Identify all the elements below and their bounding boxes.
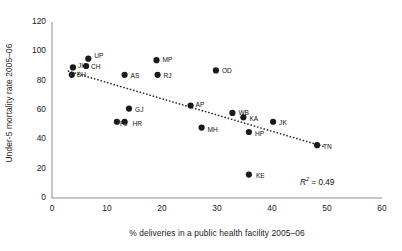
data-point-wb <box>229 110 235 116</box>
data-point-rj <box>155 72 161 78</box>
point-label-od: OD <box>222 67 232 74</box>
data-point-od <box>213 67 219 73</box>
point-label-tn: TN <box>323 143 332 150</box>
plot-area <box>0 0 402 251</box>
y-tick-label-120: 120 <box>20 16 46 26</box>
data-point-gj <box>126 105 132 111</box>
data-point-as <box>122 72 128 78</box>
point-label-ka: KA <box>249 115 258 122</box>
x-tick-label-40: 40 <box>257 203 287 213</box>
x-tick-label-10: 10 <box>92 203 122 213</box>
data-point-tn <box>314 142 320 148</box>
r-equals: = <box>309 178 318 187</box>
trend-line <box>69 71 325 147</box>
y-tick-label-0: 0 <box>20 192 46 202</box>
point-label-mp: MP <box>163 56 173 63</box>
point-label-as: AS <box>131 72 140 79</box>
point-label-ke: KE <box>256 172 265 179</box>
point-label-ap: AP <box>196 101 205 108</box>
r-squared-annotation: R2 = 0.49 <box>300 176 334 187</box>
y-tick-label-20: 20 <box>20 163 46 173</box>
data-point-ap <box>188 103 194 109</box>
point-label-gj: GJ <box>135 106 143 113</box>
point-label-wb: WB <box>238 109 249 116</box>
scatter-chart: Under-5 mortality rate 2005–06 % deliver… <box>0 0 402 251</box>
data-point-jk <box>270 119 276 125</box>
axis-lines <box>52 22 382 198</box>
data-point-jh <box>70 64 76 70</box>
data-point-up <box>85 56 91 62</box>
data-point-bh <box>69 72 75 78</box>
data-point-mp <box>153 57 159 63</box>
point-label-hr: HR <box>133 120 143 127</box>
point-label-rj: RJ <box>164 72 172 79</box>
data-point-ke <box>246 171 252 177</box>
x-tick-label-20: 20 <box>147 203 177 213</box>
data-point-hp <box>246 129 252 135</box>
x-tick-label-0: 0 <box>37 203 67 213</box>
point-label-jk: JK <box>279 119 287 126</box>
point-label-up: UP <box>94 52 103 59</box>
point-label-pj: PJ <box>120 120 128 127</box>
r-value: 0.49 <box>318 178 334 187</box>
point-label-hp: HP <box>255 130 264 137</box>
trend-line-path <box>69 71 325 147</box>
point-label-bh: BH <box>77 71 86 78</box>
y-tick-label-100: 100 <box>20 45 46 55</box>
x-tick-label-50: 50 <box>312 203 342 213</box>
y-tick-label-60: 60 <box>20 104 46 114</box>
point-label-jh: JH <box>78 62 86 69</box>
point-label-ch: CH <box>91 63 101 70</box>
point-label-mh: MH <box>208 126 218 133</box>
x-tick-label-30: 30 <box>202 203 232 213</box>
data-point-mh <box>199 125 205 131</box>
x-tick-label-60: 60 <box>367 203 397 213</box>
data-points <box>69 56 321 178</box>
y-tick-label-40: 40 <box>20 133 46 143</box>
y-tick-label-80: 80 <box>20 75 46 85</box>
